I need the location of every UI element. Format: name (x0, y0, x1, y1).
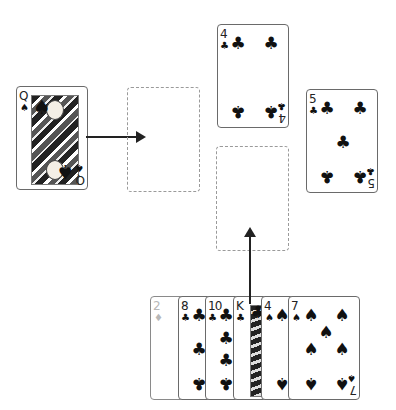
club-icon: ♣ (220, 41, 229, 51)
card-rank: 7 (291, 300, 299, 312)
spade-icon: ♠ (347, 373, 356, 383)
card-rank: 4 (220, 28, 228, 40)
card-rank: 2 (153, 300, 161, 312)
spade-icon: ♠ (20, 103, 29, 113)
spade-icon: ♠ (334, 341, 349, 358)
club-icon: ♣ (277, 101, 286, 111)
spade-icon: ♠ (303, 307, 318, 324)
spade-icon: ♠ (75, 163, 84, 173)
spade-icon: ♠ (265, 313, 274, 323)
card-5-of-clubs[interactable]: 5 ♣ ♣ ♣ ♣ ♣ ♣ 5 ♣ (306, 89, 378, 193)
club-icon: ♣ (352, 100, 367, 117)
club-icon: ♣ (181, 313, 190, 323)
target-slot-left[interactable] (127, 87, 200, 192)
club-icon: ♣ (218, 375, 233, 392)
card-4-of-clubs[interactable]: 4 ♣ ♣ ♣ ♣ ♣ 4 ♣ (217, 24, 289, 128)
spade-icon: ♠ (334, 307, 349, 324)
card-rank: 4 (264, 300, 272, 312)
club-icon: ♣ (208, 313, 217, 323)
card-rank: 5 (367, 177, 375, 189)
card-queen-of-spades[interactable]: Q ♠ ♠ ♠ Q ♠ (16, 86, 88, 190)
club-icon: ♣ (319, 168, 334, 185)
spade-icon: ♠ (303, 341, 318, 358)
club-icon: ♣ (319, 100, 334, 117)
spade-icon: ♠ (33, 99, 51, 116)
club-icon: ♣ (366, 166, 375, 176)
card-rank: 7 (349, 384, 357, 396)
card-rank: Q (76, 174, 85, 186)
move-arrow-up (249, 236, 251, 304)
club-icon: ♣ (309, 106, 318, 116)
club-icon: ♣ (236, 313, 245, 323)
hand-card-7-spades[interactable]: 7 ♠ ♠ ♠ ♠ ♠ ♠ ♠ ♠ 7 ♠ (288, 296, 360, 400)
spade-icon: ♠ (318, 324, 333, 341)
card-rank: 5 (309, 93, 317, 105)
spade-icon: ♠ (303, 375, 318, 392)
card-rank: K (236, 300, 244, 312)
club-icon: ♣ (335, 134, 350, 151)
card-rank: 4 (278, 112, 286, 124)
club-icon: ♣ (218, 330, 233, 347)
club-icon: ♣ (230, 35, 245, 52)
spade-icon: ♠ (56, 163, 74, 180)
spade-icon: ♠ (292, 313, 301, 323)
club-icon: ♣ (218, 352, 233, 369)
club-icon: ♣ (230, 103, 245, 120)
club-icon: ♣ (218, 307, 233, 324)
card-rank: 8 (181, 300, 189, 312)
diamond-icon: ♦ (154, 313, 163, 323)
club-icon: ♣ (263, 35, 278, 52)
card-rank: Q (19, 90, 28, 102)
